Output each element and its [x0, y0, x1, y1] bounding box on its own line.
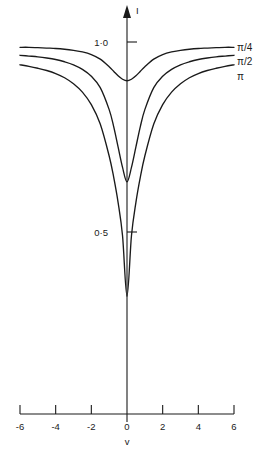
x-tick-label-0: 0: [124, 421, 129, 432]
series-label-group: π/4 π/2 π: [237, 42, 253, 82]
series-label-pi: π: [237, 71, 244, 82]
y-axis: I: [123, 5, 139, 422]
y-axis-label: I: [136, 5, 139, 16]
series-label-pi-over-4: π/4: [237, 42, 253, 53]
y-tick-label-2: 0·5: [94, 227, 108, 238]
x-tick-label-minus4: -4: [51, 421, 59, 432]
y-axis-arrowhead: [123, 5, 131, 18]
x-tick-label-4: 4: [196, 421, 201, 432]
x-tick-label-2: 2: [160, 421, 165, 432]
x-tick-label-minus6: -6: [16, 421, 24, 432]
chart-figure: I 1·0 0·5 -6 -4 -2 0 2 4 6 v: [0, 0, 254, 449]
x-tick-label-6: 6: [231, 421, 236, 432]
x-axis-label: v: [125, 436, 130, 447]
x-tick-label-minus2: -2: [87, 421, 95, 432]
x-axis: -6 -4 -2 0 2 4 6 v: [16, 405, 237, 447]
y-tick-label-1: 1·0: [94, 37, 108, 48]
series-label-pi-over-2: π/2: [237, 56, 253, 67]
chart-plot-area: I 1·0 0·5 -6 -4 -2 0 2 4 6 v: [0, 0, 254, 449]
